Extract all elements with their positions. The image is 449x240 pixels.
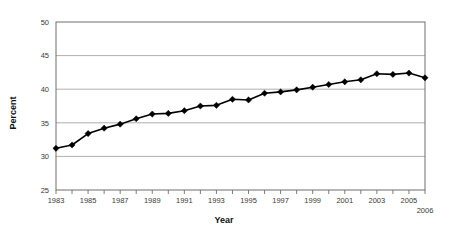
data-point-marker <box>278 89 284 95</box>
x-tick-label: 1985 <box>80 196 97 205</box>
x-axis-end-label: 2006 <box>417 206 434 215</box>
data-point-marker <box>213 102 219 108</box>
data-point-marker <box>261 90 267 96</box>
y-tick-label: 40 <box>41 85 49 94</box>
data-point-marker <box>374 71 380 77</box>
x-tick-label: 2005 <box>401 196 418 205</box>
data-point-marker <box>422 75 428 81</box>
data-point-marker <box>101 125 107 131</box>
x-tick-label: 1997 <box>272 196 289 205</box>
data-series-group <box>56 73 425 148</box>
y-tick-label: 45 <box>41 51 49 60</box>
data-point-marker <box>53 145 59 151</box>
x-tick-label: 1999 <box>304 196 321 205</box>
chart-figure: 253035404550 198319851987198919911993199… <box>0 0 449 240</box>
plot-area-border <box>56 22 425 190</box>
data-point-marker <box>390 71 396 77</box>
x-tick-label: 2001 <box>336 196 353 205</box>
x-tick-label: 1987 <box>112 196 129 205</box>
data-point-marker <box>342 79 348 85</box>
data-point-marker <box>406 70 412 76</box>
x-tick-label: 1989 <box>144 196 161 205</box>
x-tick-label: 1991 <box>176 196 193 205</box>
x-tick-marks-group <box>56 190 425 194</box>
data-point-marker <box>294 87 300 93</box>
y-tick-label: 30 <box>41 152 49 161</box>
gridlines-group <box>56 56 425 157</box>
y-tick-label: 25 <box>41 186 49 195</box>
data-point-marker <box>149 111 155 117</box>
data-point-marker <box>197 103 203 109</box>
data-point-marker <box>358 77 364 83</box>
data-point-marker <box>245 97 251 103</box>
y-tick-label: 35 <box>41 119 49 128</box>
data-markers-group <box>53 70 428 151</box>
data-point-marker <box>181 108 187 114</box>
data-point-marker <box>229 96 235 102</box>
data-point-marker <box>117 121 123 127</box>
line-chart: 253035404550 198319851987198919911993199… <box>0 0 449 240</box>
data-point-marker <box>165 110 171 116</box>
series-line-percent <box>56 73 425 148</box>
x-tick-label: 1983 <box>48 196 65 205</box>
x-tick-labels-group: 1983198519871989199119931995199719992001… <box>48 196 418 205</box>
y-axis-title: Percent <box>8 96 18 129</box>
data-point-marker <box>133 116 139 122</box>
data-point-marker <box>326 81 332 87</box>
y-tick-labels-group: 253035404550 <box>41 18 49 195</box>
plot-frame <box>56 22 425 190</box>
x-tick-label: 1993 <box>208 196 225 205</box>
x-tick-label: 1995 <box>240 196 257 205</box>
y-tick-label: 50 <box>41 18 49 27</box>
x-tick-label: 2003 <box>369 196 386 205</box>
x-axis-title: Year <box>214 215 234 225</box>
